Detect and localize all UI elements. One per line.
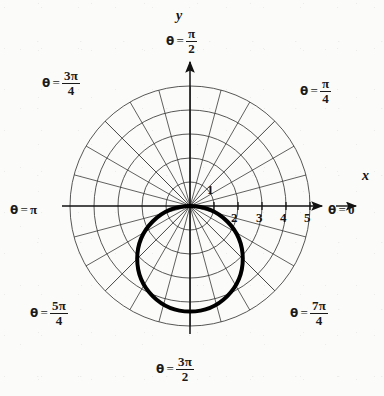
theta-symbol: θ: [300, 84, 308, 98]
fraction-denominator: 4: [62, 84, 80, 98]
equals-symbol: =: [40, 305, 48, 320]
radial-tick-2: 2: [231, 210, 238, 226]
theta-symbol: θ: [328, 203, 336, 217]
radial-tick-5: 5: [304, 210, 311, 226]
angle-fraction: π4: [320, 77, 331, 105]
theta-symbol: θ: [166, 34, 174, 48]
radial-tick-4: 4: [280, 210, 287, 226]
equals-symbol: =: [52, 75, 60, 90]
equals-symbol: =: [310, 83, 318, 98]
angle-fraction: 7π4: [310, 299, 328, 327]
angle-label-theta-5pi-4: θ=5π4: [30, 300, 68, 328]
fraction-denominator: 2: [186, 42, 197, 56]
radial-tick-1: 1: [207, 182, 214, 198]
theta-symbol: θ: [42, 76, 50, 90]
equals-symbol: =: [176, 33, 184, 48]
angle-fraction: 3π4: [62, 69, 80, 97]
fraction-numerator: π: [320, 77, 331, 92]
angle-label-theta-pi-4: θ=π4: [300, 78, 331, 106]
polar-plot-canvas: [0, 0, 384, 396]
theta-symbol: θ: [30, 306, 38, 320]
angle-value: 0: [348, 202, 355, 217]
angle-fraction: 3π2: [176, 355, 194, 383]
theta-symbol: θ: [10, 203, 18, 217]
angle-value: π: [30, 202, 37, 217]
fraction-numerator: 3π: [62, 69, 80, 84]
angle-fraction: π2: [186, 27, 197, 55]
fraction-denominator: 4: [50, 314, 68, 328]
angle-fraction: 5π4: [50, 299, 68, 327]
y-axis-label-x: x: [362, 168, 369, 184]
angle-label-theta-3pi-4: θ=3π4: [42, 70, 80, 98]
fraction-numerator: 7π: [310, 299, 328, 314]
angle-label-theta-0: θ=0: [328, 203, 355, 216]
equals-symbol: =: [20, 202, 28, 217]
fraction-numerator: 3π: [176, 355, 194, 370]
fraction-numerator: π: [186, 27, 197, 42]
angle-label-theta-pi: θ=π: [10, 203, 37, 216]
fraction-denominator: 4: [310, 314, 328, 328]
fraction-denominator: 4: [320, 92, 331, 106]
equals-symbol: =: [338, 202, 346, 217]
fraction-numerator: 5π: [50, 299, 68, 314]
equals-symbol: =: [300, 305, 308, 320]
radial-tick-3: 3: [256, 210, 263, 226]
fraction-denominator: 2: [176, 370, 194, 384]
angle-label-theta-7pi-4: θ=7π4: [290, 300, 328, 328]
angle-label-theta-pi-2: θ=π2: [166, 28, 197, 56]
theta-symbol: θ: [156, 362, 164, 376]
polar-plot-figure: x y 1 2 3 4 5 θ=0 θ=π4 θ=π2 θ=3π4 θ=π θ=…: [0, 0, 384, 396]
equals-symbol: =: [166, 361, 174, 376]
x-axis-label-y: y: [176, 8, 182, 24]
theta-symbol: θ: [290, 306, 298, 320]
angle-label-theta-3pi-2: θ=3π2: [156, 356, 194, 384]
